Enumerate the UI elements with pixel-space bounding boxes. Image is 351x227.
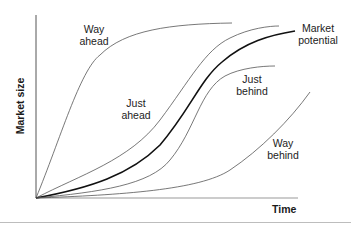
curve-just-ahead (36, 26, 279, 198)
label-market-potential-line2: potential (293, 34, 343, 46)
y-axis-label: Market size (14, 74, 26, 138)
label-market-potential: Market potential (293, 22, 343, 46)
label-just-ahead: Just ahead (118, 97, 154, 121)
label-way-behind-line1: Way (263, 137, 303, 149)
label-just-ahead-line1: Just (118, 97, 154, 109)
label-way-ahead-line1: Way (76, 23, 112, 35)
x-axis-label: Time (272, 203, 296, 215)
label-way-ahead-line2: ahead (76, 35, 112, 47)
label-just-behind: Just behind (232, 73, 272, 97)
curve-market-potential (36, 31, 295, 198)
label-market-potential-line1: Market (293, 22, 343, 34)
label-way-behind-line2: behind (263, 149, 303, 161)
label-just-ahead-line2: ahead (118, 109, 154, 121)
label-way-ahead: Way ahead (76, 23, 112, 47)
label-just-behind-line2: behind (232, 85, 272, 97)
bottom-divider (0, 222, 351, 223)
label-way-behind: Way behind (263, 137, 303, 161)
label-just-behind-line1: Just (232, 73, 272, 85)
